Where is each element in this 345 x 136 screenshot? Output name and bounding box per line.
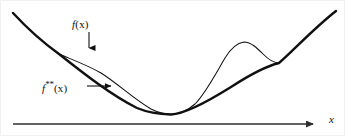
curve-f-of-x [13, 11, 336, 114]
figure-canvas [1, 1, 345, 136]
label-f-of-x: f(x) [72, 16, 89, 30]
curve-f-biconjugate [13, 11, 336, 115]
label-f-biconjugate-stars: ** [45, 79, 54, 89]
figure-container: f(x) f**(x) x [0, 0, 345, 136]
label-f-biconjugate: f**(x) [42, 80, 67, 94]
label-f-of-x-arg: (x) [75, 18, 88, 30]
label-f-biconjugate-arg: (x) [54, 82, 67, 94]
x-axis-label: x [329, 114, 334, 125]
